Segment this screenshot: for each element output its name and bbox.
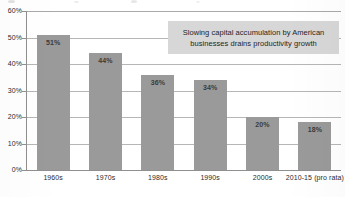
callout-line-2: businesses drains productivity growth [190, 38, 317, 49]
x-axis-category-label: 1980s [132, 174, 184, 181]
bar: 18% [298, 122, 331, 170]
scan-artifact [74, 1, 79, 3]
gridline [27, 11, 341, 12]
bar: 34% [194, 80, 227, 170]
x-axis-labels: 1960s1970s1980s1990s2000s2010-15 (pro ra… [27, 174, 341, 192]
bar: 51% [37, 35, 70, 170]
scan-artifact [131, 0, 137, 3]
x-axis-category-label: 1960s [27, 174, 79, 181]
y-axis-tick [22, 91, 27, 92]
y-axis-tick [22, 64, 27, 65]
callout-line-1: Slowing capital accumulation by American [183, 27, 325, 38]
x-axis-category-label: 2010-15 (pro rata) [275, 174, 345, 181]
bar: 20% [246, 117, 279, 170]
bar-chart-figure: 60%50%40%30%20%10%0% 51%44%36%34%20%18% … [0, 0, 345, 197]
bar-value-label: 36% [141, 79, 174, 86]
y-axis-tick [22, 144, 27, 145]
y-axis-labels: 60%50%40%30%20%10%0% [0, 0, 24, 197]
gridline [27, 144, 341, 145]
scan-artifact [196, 1, 200, 3]
y-axis-tick [22, 11, 27, 12]
x-axis-baseline [26, 170, 341, 171]
y-axis-tick-label: 60% [0, 7, 22, 14]
gridline [27, 64, 341, 65]
y-axis-tick-label: 0% [0, 166, 22, 173]
y-axis-tick-label: 30% [0, 87, 22, 94]
bar-value-label: 20% [246, 121, 279, 128]
bar-value-label: 34% [194, 84, 227, 91]
y-axis-tick-label: 40% [0, 60, 22, 67]
gridline [27, 91, 341, 92]
bar: 44% [89, 53, 122, 170]
y-axis-tick-label: 20% [0, 113, 22, 120]
gridline [27, 117, 341, 118]
x-axis-category-label: 1990s [184, 174, 236, 181]
y-axis-tick [22, 38, 27, 39]
y-axis-tick [22, 170, 27, 171]
bar-value-label: 44% [89, 57, 122, 64]
x-axis-category-label: 1970s [79, 174, 131, 181]
y-axis-tick [22, 117, 27, 118]
y-axis-tick-label: 50% [0, 34, 22, 41]
bar-value-label: 51% [37, 39, 70, 46]
y-axis-tick-label: 10% [0, 140, 22, 147]
bar: 36% [141, 75, 174, 170]
bar-value-label: 18% [298, 126, 331, 133]
callout-annotation: Slowing capital accumulation by American… [168, 21, 339, 54]
